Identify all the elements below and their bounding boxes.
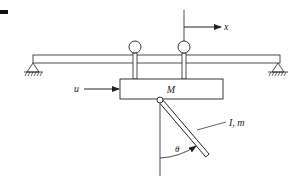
angle-label: θ [175, 144, 180, 154]
corner-mark [0, 10, 8, 14]
cart-mass-label: M [166, 84, 176, 95]
left-wheel-stem [133, 53, 137, 79]
right-wheel-stem [182, 53, 186, 79]
force-label: u [74, 83, 79, 94]
position-label: x [223, 21, 229, 32]
pendulum-label: I, m [228, 117, 245, 128]
pivot-joint [157, 97, 163, 103]
track-rail [33, 55, 280, 63]
pendulum-rod [158, 99, 209, 157]
pendulum-leader-line [197, 122, 226, 130]
right-support [268, 63, 288, 76]
left-support [24, 63, 43, 76]
left-wheel [129, 41, 141, 53]
inverted-pendulum-diagram: x M u I, m θ [0, 0, 304, 188]
right-wheel [178, 41, 190, 53]
